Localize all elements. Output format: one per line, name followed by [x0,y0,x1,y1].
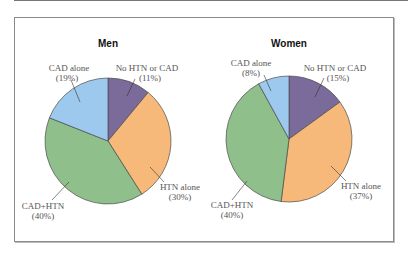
men-cad-alone-label: CAD alone [49,63,90,73]
men-cad-htn-leader [52,182,69,200]
women-cad-htn-label: CAD+HTN [211,200,254,210]
women-cad-htn-pct: (40%) [221,210,244,220]
women-no-htn-label: No HTN or CAD [304,63,367,73]
men-no-htn-pct: (11%) [139,73,161,83]
men-title: Men [98,38,118,49]
men-pie [45,78,171,204]
men-chart: Men CAD alone (19%) No HTN or CAD (11%) … [22,38,200,221]
women-cad-alone-pct: (8%) [242,68,260,78]
men-htn-alone-pct: (30%) [169,192,192,202]
men-no-htn-label: No HTN or CAD [116,63,179,73]
women-htn-alone-pct: (37%) [350,191,373,201]
men-cad-alone-pct: (19%) [56,73,79,83]
women-chart: Women CAD alone (8%) No HTN or CAD (15%)… [211,38,381,220]
men-cad-htn-label: CAD+HTN [22,201,65,211]
pie-charts: Men CAD alone (19%) No HTN or CAD (11%) … [0,0,408,253]
women-htn-alone-label: HTN alone [341,181,381,191]
women-no-htn-pct: (15%) [327,73,350,83]
men-htn-alone-label: HTN alone [160,182,200,192]
women-cad-htn-leader [232,181,247,200]
men-cad-htn-pct: (40%) [32,211,55,221]
women-cad-alone-label: CAD alone [231,58,272,68]
women-title: Women [271,38,307,49]
women-pie [226,76,352,202]
